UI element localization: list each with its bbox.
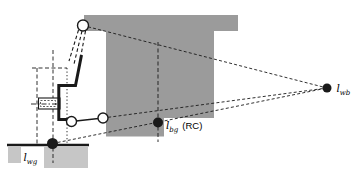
body-top-bar — [84, 15, 238, 31]
label-bg-subscript: bg — [169, 126, 178, 134]
wheel-hub — [31, 98, 60, 109]
joints — [67, 20, 109, 127]
label-roll-center: lbg(RC) — [166, 119, 202, 134]
label-wb-subscript: wb — [340, 89, 351, 97]
label-wheel-ground: lwg — [24, 151, 38, 166]
strut-line-left — [69, 30, 79, 61]
ground-hatch-right — [44, 147, 88, 168]
label-bg-suffix: (RC) — [182, 120, 202, 131]
lower-arm-outer-joint — [67, 117, 77, 127]
knuckle-upright — [59, 55, 82, 120]
strut-dashed-lines — [69, 30, 86, 66]
body-main-block — [106, 30, 214, 118]
lower-arm-inner-joint — [98, 113, 108, 123]
ground-hatch-left — [8, 147, 21, 163]
strut-top-mount-joint — [78, 20, 89, 31]
ground — [7, 145, 89, 168]
hub-rect — [39, 98, 61, 109]
point-wheel-body — [323, 84, 332, 93]
label-wg-subscript: wg — [27, 158, 38, 166]
suspension-kinematics-diagram: lwg lbg(RC) lwb — [0, 0, 363, 172]
label-wheel-body: lwb — [337, 82, 351, 97]
point-body-ground-roll-center — [153, 118, 163, 128]
point-wheel-ground — [47, 138, 58, 149]
